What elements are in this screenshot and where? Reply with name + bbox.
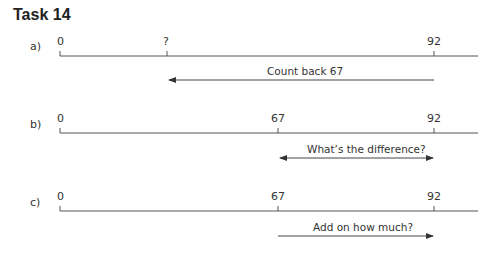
tick-label: 92 (427, 190, 441, 203)
number-line-c: c) 0 67 92 Add on how much? (30, 190, 478, 236)
tick-label: 0 (57, 190, 64, 203)
part-label-a: a) (30, 40, 41, 53)
tick-label: 92 (427, 112, 441, 125)
tick-label: 0 (57, 112, 64, 125)
number-line-b: b) 0 67 92 What’s the difference? (30, 112, 478, 158)
arrow-caption: What’s the difference? (307, 143, 426, 155)
tick-label: 67 (271, 112, 285, 125)
tick-label: 67 (271, 190, 285, 203)
arrow-caption: Add on how much? (313, 221, 413, 233)
part-label-b: b) (30, 118, 41, 131)
tick-label: ? (163, 35, 169, 48)
tick-label: 92 (427, 35, 441, 48)
tick-label: 0 (57, 35, 64, 48)
number-line-a: a) 0 ? 92 Count back 67 (30, 35, 478, 80)
arrow-caption: Count back 67 (267, 65, 343, 77)
part-label-c: c) (30, 196, 40, 209)
number-lines-diagram: a) 0 ? 92 Count back 67 b) 0 67 92 What’… (0, 0, 496, 253)
